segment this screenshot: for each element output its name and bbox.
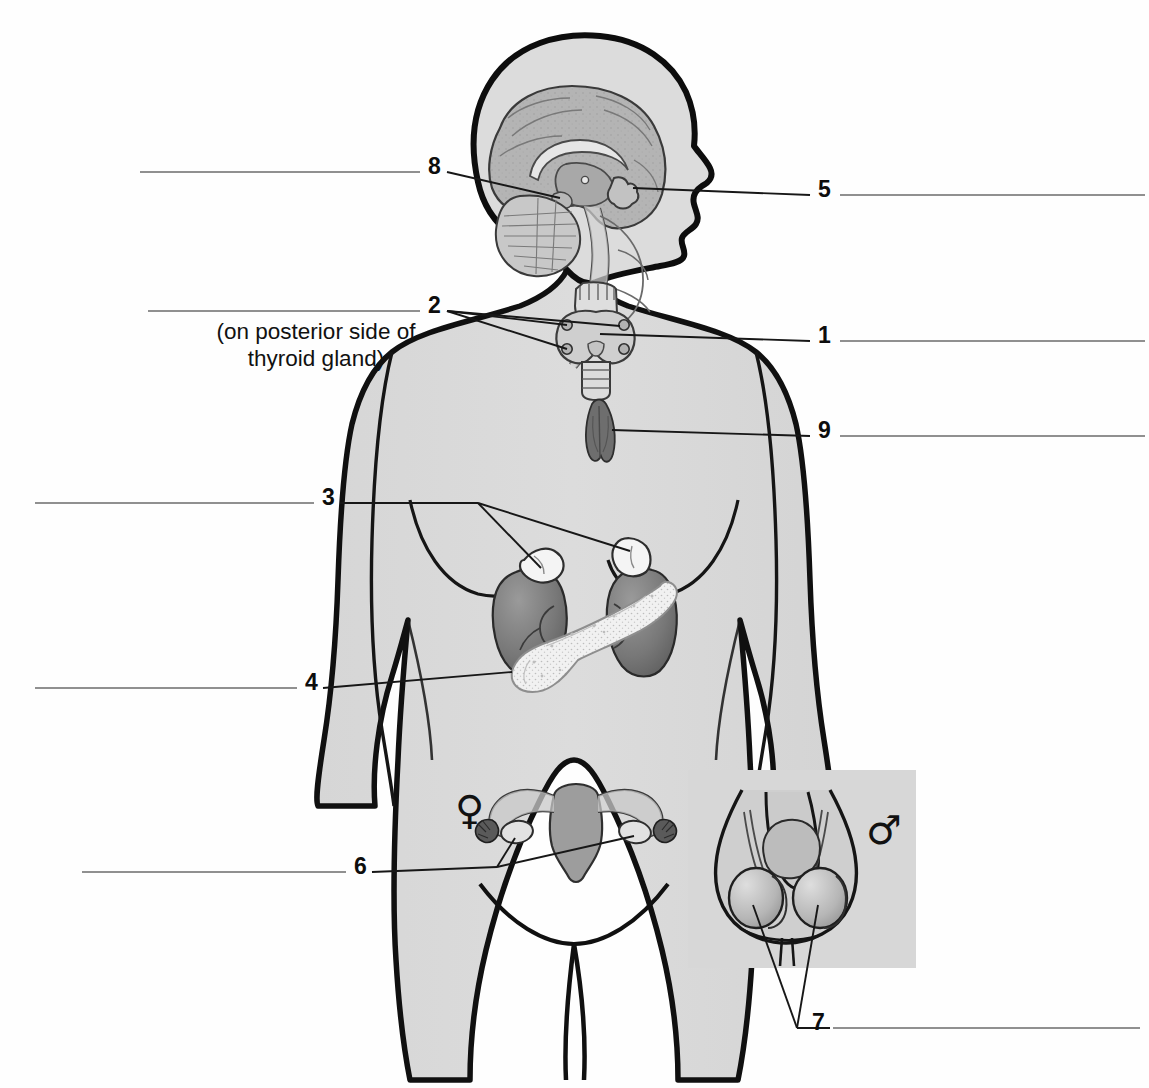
male-symbol: ♂ [866, 810, 902, 850]
parathyroid-location-note: (on posterior side of thyroid gland) [176, 318, 456, 373]
label-number-7[interactable]: 7 [812, 1011, 825, 1034]
label-number-5[interactable]: 5 [818, 178, 831, 201]
female-symbol: ♀ [455, 790, 484, 830]
endocrine-body-illustration [0, 0, 1149, 1088]
label-number-3[interactable]: 3 [322, 486, 335, 509]
male-reproductive-inset [688, 770, 916, 968]
anatomy-figure: 8 2 3 4 6 5 1 9 7 (on posterior side of … [0, 0, 1149, 1088]
label-number-9[interactable]: 9 [818, 419, 831, 442]
label-number-2[interactable]: 2 [428, 294, 441, 317]
label-number-4[interactable]: 4 [305, 671, 318, 694]
label-number-1[interactable]: 1 [818, 324, 831, 347]
label-number-6[interactable]: 6 [354, 855, 367, 878]
label-number-8[interactable]: 8 [428, 155, 441, 178]
